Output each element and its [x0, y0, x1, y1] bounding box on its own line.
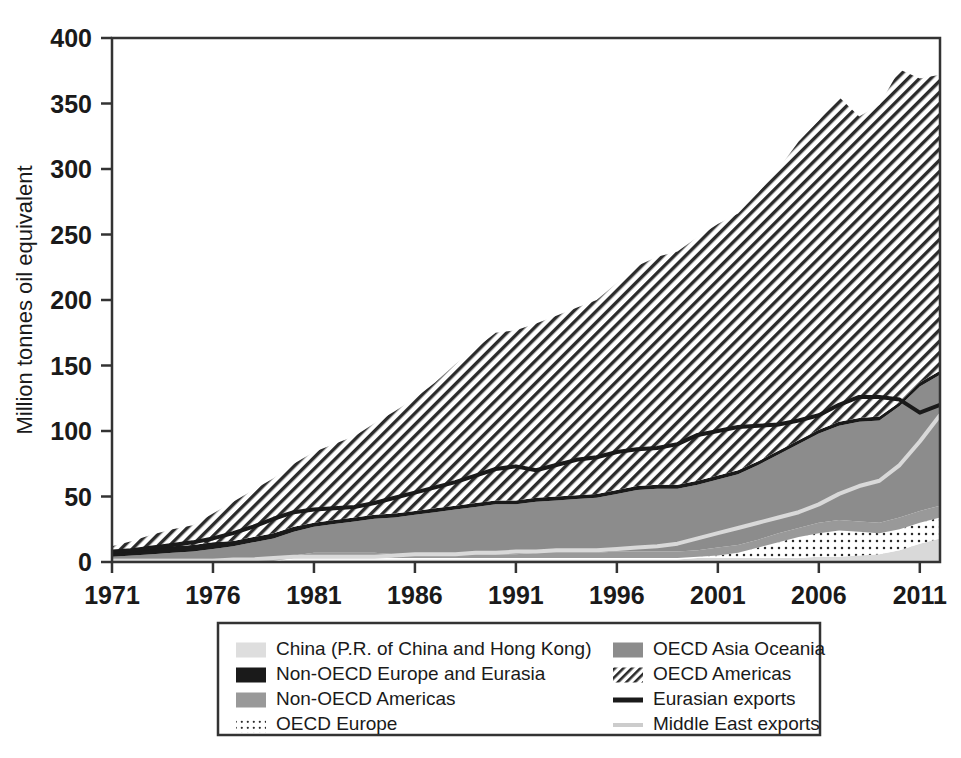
x-tick-label: 1991 — [488, 581, 544, 609]
x-axis: 197119761981198619911996200120062011 — [84, 562, 947, 609]
y-tick-label: 100 — [50, 417, 92, 445]
swatch-non-oecd-americas — [236, 693, 266, 708]
x-tick-label: 2006 — [791, 581, 847, 609]
swatch-china — [236, 643, 266, 658]
x-tick-label: 1996 — [589, 581, 645, 609]
x-tick-label: 1986 — [387, 581, 443, 609]
x-tick-label: 1971 — [84, 581, 140, 609]
swatch-oecd-europe — [236, 718, 266, 733]
legend-label: OECD Europe — [276, 713, 397, 734]
legend-label: OECD Americas — [653, 663, 791, 684]
y-axis-title: Million tonnes oil equivalent — [12, 165, 37, 434]
legend-label: Eurasian exports — [653, 688, 796, 709]
stacked-area-chart: 050100150200250300350400 197119761981198… — [0, 0, 961, 758]
legend-label: China (P.R. of China and Hong Kong) — [276, 638, 591, 659]
swatch-non-oecd-europe — [236, 668, 266, 683]
chart-figure: 050100150200250300350400 197119761981198… — [0, 0, 961, 758]
legend: China (P.R. of China and Hong Kong)Non-O… — [218, 623, 826, 735]
y-tick-label: 250 — [50, 221, 92, 249]
y-tick-label: 400 — [50, 24, 92, 52]
y-tick-label: 0 — [78, 548, 92, 576]
y-axis: 050100150200250300350400 — [50, 24, 112, 576]
legend-label: Non-OECD Europe and Eurasia — [276, 663, 546, 684]
y-tick-label: 350 — [50, 90, 92, 118]
legend-label: OECD Asia Oceania — [653, 638, 826, 659]
x-tick-label: 2001 — [690, 581, 746, 609]
y-tick-label: 150 — [50, 352, 92, 380]
y-tick-label: 300 — [50, 155, 92, 183]
y-tick-label: 50 — [64, 483, 92, 511]
legend-label: Middle East exports — [653, 713, 820, 734]
swatch-oecd-asia-oceania — [613, 643, 643, 658]
x-tick-label: 1981 — [286, 581, 342, 609]
x-tick-label: 2011 — [893, 581, 947, 609]
legend-item-china-p-r-of-china-and-hong-kong[interactable]: China (P.R. of China and Hong Kong) — [236, 638, 591, 659]
x-tick-label: 1976 — [185, 581, 241, 609]
legend-item-non-oecd-europe-and-eurasia[interactable]: Non-OECD Europe and Eurasia — [236, 663, 546, 684]
y-tick-label: 200 — [50, 286, 92, 314]
swatch-oecd-americas — [613, 668, 643, 683]
legend-label: Non-OECD Americas — [276, 688, 456, 709]
